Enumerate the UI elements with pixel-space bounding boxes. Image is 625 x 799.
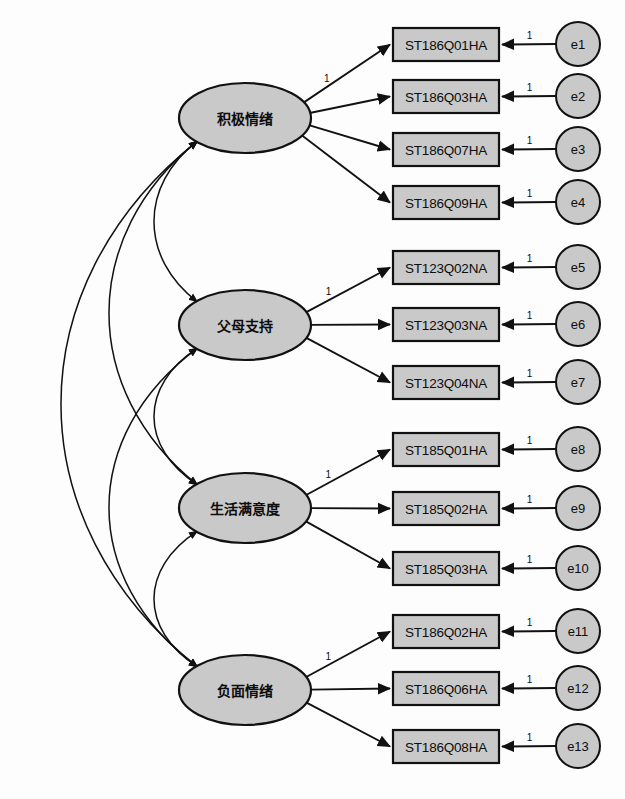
indicator-node-i8: ST185Q01HA [393, 433, 499, 466]
error-fixed-label-e9: 1 [527, 494, 533, 505]
indicator-node-i6: ST123Q03NA [393, 308, 499, 341]
indicator-node-i3: ST186Q07HA [393, 133, 499, 166]
indicator-label-i10: ST185Q03HA [405, 562, 487, 577]
error-term-label-e6: e6 [571, 317, 585, 332]
error-path-e7-i7 [502, 382, 556, 383]
error-fixed-label-e5: 1 [527, 253, 533, 264]
indicator-node-i11: ST186Q02HA [393, 615, 499, 648]
error-path-e4-i4 [502, 202, 556, 203]
error-term-node-e11: e11 [556, 609, 600, 653]
error-term-label-e13: e13 [567, 739, 589, 754]
error-term-label-e5: e5 [571, 260, 585, 275]
indicator-node-i12: ST186Q06HA [393, 672, 499, 705]
error-term-label-e3: e3 [571, 142, 585, 157]
factor-loading-f2-i5 [306, 268, 390, 313]
indicator-node-i2: ST186Q03HA [393, 80, 499, 113]
error-term-node-e12: e12 [556, 666, 600, 710]
loading-fixed-label-i5: 1 [326, 286, 332, 297]
error-term-node-e4: e4 [556, 180, 600, 224]
loading-fixed-label-i1: 1 [324, 73, 330, 84]
sem-diagram-svg: ST186Q01HAST186Q03HAST186Q07HAST186Q09HA… [0, 0, 625, 799]
cov-f3-f4 [154, 531, 198, 667]
indicator-node-i4: ST186Q09HA [393, 186, 499, 219]
indicator-label-i5: ST123Q02NA [405, 261, 487, 276]
error-fixed-label-e1: 1 [527, 30, 533, 41]
error-fixed-label-e13: 1 [527, 732, 533, 743]
error-path-e13-i13 [502, 746, 556, 747]
latent-factor-label-f1: 积极情绪 [217, 111, 273, 127]
factor-loading-f4-i12 [310, 689, 390, 690]
cov-f1-f2 [154, 141, 198, 302]
error-term-node-e10: e10 [556, 546, 600, 590]
error-term-label-e2: e2 [571, 89, 585, 104]
indicator-label-i11: ST186Q02HA [405, 625, 487, 640]
error-fixed-label-e6: 1 [527, 310, 533, 321]
error-fixed-label-e3: 1 [527, 135, 533, 146]
error-term-node-e8: e8 [556, 427, 600, 471]
error-path-arrows-group [502, 44, 556, 747]
factor-loading-f1-i3 [309, 125, 390, 149]
indicator-label-i3: ST186Q07HA [405, 143, 487, 158]
covariance-arcs-group [61, 141, 198, 667]
error-term-node-e5: e5 [556, 245, 600, 289]
latent-factor-label-f3: 生活满意度 [210, 501, 281, 517]
error-path-e9-i9 [502, 508, 556, 509]
indicator-label-i4: ST186Q09HA [405, 196, 487, 211]
latent-factor-node-f2: 父母支持 [179, 290, 311, 360]
latent-factor-ellipses-group: 积极情绪父母支持生活满意度负面情绪 [179, 83, 311, 725]
indicator-label-i9: ST185Q02HA [405, 502, 487, 517]
latent-factor-node-f3: 生活满意度 [179, 473, 311, 543]
error-fixed-label-e11: 1 [527, 617, 533, 628]
indicator-node-i13: ST186Q08HA [393, 730, 499, 763]
factor-loading-f3-i8 [306, 450, 390, 496]
indicator-label-i2: ST186Q03HA [405, 90, 487, 105]
factor-loading-arrows-group [302, 45, 390, 747]
factor-loading-f1-i2 [310, 97, 390, 114]
error-term-label-e8: e8 [571, 442, 585, 457]
latent-factor-label-f4: 负面情绪 [217, 683, 273, 699]
error-path-e11-i11 [502, 631, 556, 632]
error-path-e3-i3 [502, 149, 556, 150]
error-term-label-e9: e9 [571, 501, 585, 516]
error-path-e8-i8 [502, 449, 556, 450]
error-term-label-e4: e4 [571, 195, 585, 210]
factor-loading-f4-i11 [306, 632, 390, 678]
error-fixed-label-e10: 1 [527, 554, 533, 565]
indicator-node-i5: ST123Q02NA [393, 251, 499, 284]
error-term-label-e1: e1 [571, 37, 585, 52]
error-fixed-label-e2: 1 [527, 82, 533, 93]
error-term-label-e7: e7 [571, 375, 585, 390]
loading-fixed-label-i11: 1 [326, 651, 332, 662]
loading-fixed-label-i8: 1 [326, 469, 332, 480]
error-term-label-e12: e12 [567, 681, 589, 696]
error-fixed-label-e8: 1 [527, 435, 533, 446]
factor-loading-f2-i7 [306, 338, 390, 383]
latent-factor-label-f2: 父母支持 [216, 318, 273, 334]
factor-loading-f3-i10 [305, 521, 390, 568]
error-term-label-e11: e11 [568, 624, 589, 639]
error-term-node-e13: e13 [556, 724, 600, 768]
indicator-node-i9: ST185Q02HA [393, 492, 499, 525]
error-term-node-e1: e1 [556, 22, 600, 66]
indicator-node-i10: ST185Q03HA [393, 552, 499, 585]
indicator-label-i1: ST186Q01HA [405, 38, 487, 53]
indicator-label-i8: ST185Q01HA [405, 443, 487, 458]
error-fixed-label-e4: 1 [527, 188, 533, 199]
error-term-node-e6: e6 [556, 302, 600, 346]
latent-factor-node-f4: 负面情绪 [179, 655, 311, 725]
indicator-label-i12: ST186Q06HA [405, 682, 487, 697]
error-path-e5-i5 [502, 267, 556, 268]
indicator-label-i7: ST123Q04NA [405, 376, 487, 391]
error-term-label-e10: e10 [567, 561, 589, 576]
error-term-node-e9: e9 [556, 486, 600, 530]
error-fixed-label-e12: 1 [527, 674, 533, 685]
indicator-label-i13: ST186Q08HA [405, 740, 487, 755]
cov-f2-f3 [154, 348, 198, 485]
error-fixed-label-e7: 1 [527, 368, 533, 379]
indicator-node-i1: ST186Q01HA [393, 28, 499, 61]
error-path-e6-i6 [502, 324, 556, 325]
error-term-node-e3: e3 [556, 127, 600, 171]
sem-diagram-canvas: ST186Q01HAST186Q03HAST186Q07HAST186Q09HA… [0, 0, 625, 799]
error-path-e2-i2 [502, 96, 556, 97]
error-path-e12-i12 [502, 688, 556, 689]
